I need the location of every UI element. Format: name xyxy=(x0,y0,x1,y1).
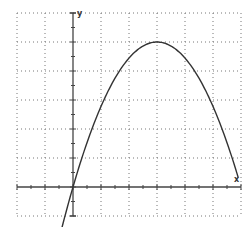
parabola-curve xyxy=(58,42,239,227)
parabola-chart: x y xyxy=(0,0,251,227)
x-axis-label: x xyxy=(234,175,240,184)
y-axis-label: y xyxy=(77,9,83,18)
axis-ticks xyxy=(17,13,241,216)
